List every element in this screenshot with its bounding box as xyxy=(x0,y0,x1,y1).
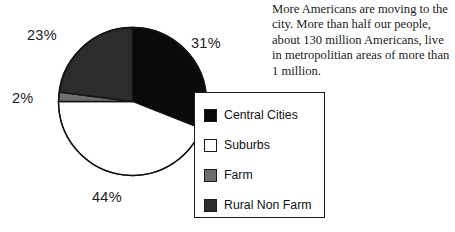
pie-label-farm: 2% xyxy=(12,91,34,106)
pie-label-rural-non-farm: 23% xyxy=(27,28,57,43)
legend-item-farm[interactable]: Farm xyxy=(204,161,322,189)
legend-label-rural-non-farm: Rural Non Farm xyxy=(224,199,311,211)
pie-label-suburbs: 44% xyxy=(92,190,122,205)
pie-chart-svg xyxy=(57,26,208,177)
legend-label-suburbs: Suburbs xyxy=(224,139,270,151)
caption-text-block: More Americans are moving to the city. M… xyxy=(272,2,452,79)
caption-paragraph: More Americans are moving to the city. M… xyxy=(272,2,452,79)
legend-swatch-suburbs-icon xyxy=(204,139,217,152)
chart-legend: Central Cities Suburbs Farm Rural Non Fa… xyxy=(194,92,325,218)
legend-item-rural-non-farm[interactable]: Rural Non Farm xyxy=(204,191,322,219)
legend-item-suburbs[interactable]: Suburbs xyxy=(204,131,322,159)
legend-list: Central Cities Suburbs Farm Rural Non Fa… xyxy=(204,101,322,221)
legend-label-central-cities: Central Cities xyxy=(224,109,298,121)
pie-slice-rural-non-farm[interactable] xyxy=(60,28,133,102)
legend-swatch-central-cities-icon xyxy=(204,109,217,122)
pie-label-central-cities: 31% xyxy=(191,36,221,51)
legend-item-central-cities[interactable]: Central Cities xyxy=(204,101,322,129)
pie-chart-figure: 23% 31% 2% 44% Central Cities Suburbs Fa… xyxy=(0,0,455,232)
legend-swatch-farm-icon xyxy=(204,169,217,182)
legend-swatch-rural-non-farm-icon xyxy=(204,199,217,212)
legend-label-farm: Farm xyxy=(224,169,253,181)
pie-chart xyxy=(57,26,208,177)
